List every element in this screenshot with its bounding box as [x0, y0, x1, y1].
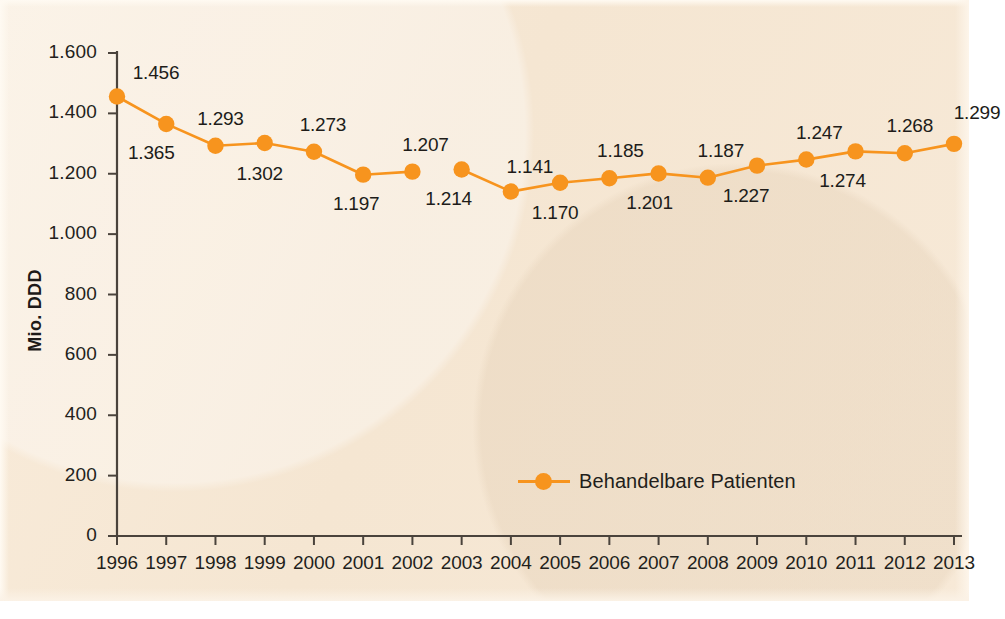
data-point-marker	[700, 169, 716, 185]
y-axis-tick-label: 1.600	[23, 41, 97, 63]
chart-legend: Behandelbare Patienten	[518, 470, 796, 493]
data-point-marker	[404, 163, 420, 179]
data-point-label: 1.201	[615, 192, 685, 214]
y-axis-tick-label: 200	[23, 464, 97, 486]
data-point-marker	[306, 144, 322, 160]
data-point-label: 1.299	[942, 102, 1005, 124]
data-point-marker	[257, 135, 273, 151]
y-axis-tick-label: 1.400	[23, 101, 97, 123]
data-point-marker	[109, 88, 125, 104]
data-point-marker	[798, 151, 814, 167]
data-point-label: 1.247	[784, 122, 854, 144]
data-point-marker	[355, 166, 371, 182]
data-point-marker	[453, 161, 469, 177]
legend-line-swatch	[518, 480, 570, 483]
data-point-marker	[847, 143, 863, 159]
data-point-label: 1.197	[321, 193, 391, 215]
legend-item-label: Behandelbare Patienten	[579, 470, 796, 493]
data-point-label: 1.302	[225, 163, 295, 185]
data-point-label: 1.170	[520, 202, 590, 224]
y-axis-tick-label: 1.000	[23, 222, 97, 244]
y-axis-tick-label: 800	[23, 283, 97, 305]
data-point-marker	[601, 170, 617, 186]
data-point-label: 1.214	[414, 188, 484, 210]
data-point-label: 1.293	[185, 108, 255, 130]
data-point-label: 1.141	[495, 156, 565, 178]
data-point-marker	[207, 137, 223, 153]
data-point-label: 1.185	[585, 140, 655, 162]
x-axis-tick-label: 2013	[925, 552, 983, 574]
data-point-marker	[503, 183, 519, 199]
data-point-marker	[897, 145, 913, 161]
y-axis-tick-label: 1.200	[23, 162, 97, 184]
data-point-label: 1.227	[711, 185, 781, 207]
data-point-label: 1.273	[288, 114, 358, 136]
legend-marker-icon	[535, 473, 552, 490]
data-point-label: 1.268	[875, 115, 945, 137]
data-point-marker	[158, 116, 174, 132]
data-point-label: 1.456	[121, 62, 191, 84]
data-point-label: 1.365	[116, 142, 186, 164]
y-axis-tick-label: 0	[23, 524, 97, 546]
data-point-label: 1.187	[686, 140, 756, 162]
data-point-label: 1.274	[808, 170, 878, 192]
data-point-marker	[946, 136, 962, 152]
y-axis-tick-label: 400	[23, 403, 97, 425]
data-point-marker	[650, 165, 666, 181]
y-axis-tick-label: 600	[23, 343, 97, 365]
data-point-label: 1.207	[390, 134, 460, 156]
